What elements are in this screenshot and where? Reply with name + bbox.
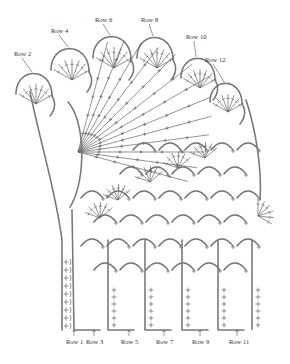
chart-stitches — [16, 24, 274, 336]
single-crochet-symbol — [186, 302, 191, 307]
single-crochet-symbol — [186, 295, 191, 300]
single-crochet-symbol — [231, 245, 235, 249]
single-crochet-symbol — [179, 149, 183, 153]
mesh-arch — [198, 215, 220, 222]
label-arrow — [128, 330, 131, 336]
loop — [70, 291, 71, 297]
single-crochet-symbol — [256, 302, 261, 307]
label-row-4: Row 4 — [51, 27, 69, 34]
inner-fan — [190, 142, 217, 158]
mesh-arch — [224, 167, 246, 174]
label-row-12: Row 12 — [205, 56, 225, 63]
single-crochet-symbol — [149, 323, 154, 328]
single-crochet-symbol — [149, 316, 154, 321]
loop — [70, 315, 71, 321]
single-crochet-symbol — [149, 288, 154, 293]
mesh-arch — [94, 215, 116, 222]
single-crochet-symbol — [222, 288, 227, 293]
mesh-arch — [159, 191, 181, 198]
shell-fan — [19, 84, 54, 104]
column-chain — [182, 240, 208, 330]
inner-fan — [163, 152, 190, 168]
shell-fan — [212, 94, 243, 112]
scallop-arch — [16, 74, 52, 96]
single-crochet-symbol — [127, 197, 131, 201]
label-arrow — [199, 330, 202, 336]
mesh-arch — [224, 215, 246, 222]
single-crochet-symbol — [140, 269, 144, 273]
single-crochet-symbol — [64, 260, 69, 265]
edge-fan — [257, 200, 274, 224]
single-crochet-symbol — [179, 197, 183, 201]
label-row-7: Row 7 — [156, 338, 174, 345]
single-crochet-symbol — [101, 197, 105, 201]
mesh-arch — [146, 263, 168, 270]
single-crochet-symbol — [114, 269, 118, 273]
single-crochet-symbol — [166, 269, 170, 273]
mesh-arch — [211, 239, 233, 246]
loop — [70, 283, 71, 289]
scallop-tail — [50, 96, 55, 116]
shell-fan — [54, 59, 90, 80]
mesh-arch — [107, 239, 129, 246]
label-row-2: Row 2 — [14, 50, 31, 57]
single-crochet-symbol — [112, 316, 117, 321]
single-crochet-symbol — [231, 197, 235, 201]
single-crochet-symbol — [64, 292, 69, 297]
label-row-8: Row 8 — [141, 16, 158, 23]
single-crochet-symbol — [222, 323, 227, 328]
mesh-arch — [81, 191, 103, 198]
crochet-chart: Row 2 Row 4 Row 6 Row 8 Row 10 Row 12 Ro… — [0, 0, 290, 364]
column-chain — [108, 240, 134, 330]
mesh-arch — [120, 215, 142, 222]
label-arrow — [73, 330, 76, 336]
single-crochet-symbol — [153, 245, 157, 249]
mesh-arch — [237, 239, 259, 246]
single-crochet-symbol — [64, 324, 69, 329]
loop — [70, 275, 71, 281]
single-crochet-symbol — [64, 308, 69, 313]
single-crochet-symbol — [112, 309, 117, 314]
single-crochet-symbol — [127, 245, 131, 249]
single-crochet-symbol — [222, 316, 227, 321]
single-crochet-symbol — [166, 221, 170, 225]
single-crochet-symbol — [244, 269, 248, 273]
label-row-6: Row 6 — [95, 16, 113, 23]
single-crochet-symbol — [256, 323, 261, 328]
mesh-arch — [133, 191, 155, 198]
mesh-arch — [159, 239, 181, 246]
label-arrow — [236, 330, 239, 336]
single-crochet-symbol — [64, 316, 69, 321]
label-row-11: Row 11 — [229, 338, 249, 345]
single-crochet-symbol — [112, 323, 117, 328]
single-crochet-symbol — [112, 295, 117, 300]
single-crochet-symbol — [149, 302, 154, 307]
single-crochet-symbol — [112, 288, 117, 293]
loop — [70, 307, 71, 313]
single-crochet-symbol — [205, 197, 209, 201]
left-edge-2 — [72, 210, 74, 330]
label-pointer — [59, 35, 68, 47]
scallop-tail — [240, 104, 245, 124]
scallop-arch — [137, 38, 173, 60]
single-crochet-symbol — [64, 276, 69, 281]
label-row-1: Row 1 — [66, 338, 83, 345]
single-crochet-symbol — [244, 173, 248, 177]
loop — [70, 323, 71, 329]
mesh-arch — [172, 167, 194, 174]
mesh-arch — [172, 215, 194, 222]
single-crochet-symbol — [218, 173, 222, 177]
single-crochet-symbol — [256, 309, 261, 314]
hub-arc — [68, 102, 82, 207]
label-pointer — [22, 58, 32, 72]
loop — [70, 259, 71, 265]
single-crochet-symbol — [256, 316, 261, 321]
single-crochet-symbol — [149, 309, 154, 314]
scallop-tail — [171, 60, 176, 80]
single-crochet-symbol — [186, 323, 191, 328]
single-crochet-symbol — [186, 288, 191, 293]
right-edge — [246, 100, 260, 200]
single-crochet-symbol — [231, 149, 235, 153]
single-crochet-symbol — [218, 221, 222, 225]
single-crochet-symbol — [153, 197, 157, 201]
